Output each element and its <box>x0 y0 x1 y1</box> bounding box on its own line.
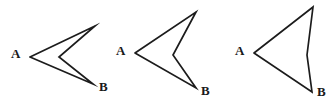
vertex-label-b-shape-3: B <box>317 85 326 98</box>
vertex-label-b-shape-1: B <box>99 80 108 93</box>
vertex-label-a-shape-1: A <box>11 47 20 60</box>
shape-arrowhead-chevron-medium <box>135 12 196 88</box>
vertex-label-a-shape-2: A <box>116 44 125 57</box>
vertex-label-b-shape-2: B <box>201 84 210 97</box>
shape-arrowhead-chevron-wide <box>254 7 313 92</box>
figure-canvas: A B A B A B <box>0 0 334 106</box>
vertex-label-a-shape-3: A <box>235 44 244 57</box>
shape-arrowhead-chevron-narrow <box>30 26 95 84</box>
shapes-svg <box>0 0 334 106</box>
